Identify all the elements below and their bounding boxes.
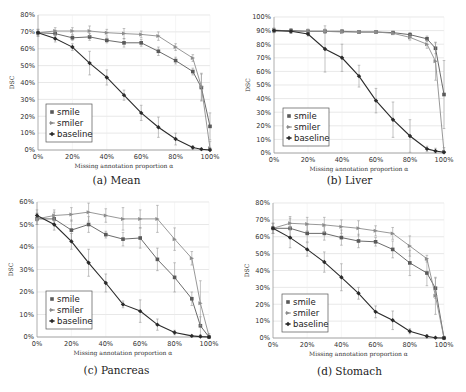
y-tick-label: 60% [256, 68, 271, 76]
square-marker [174, 59, 178, 63]
square-marker [87, 223, 91, 227]
x-tick-label: 80% [402, 341, 417, 349]
x-tick-label: 40% [334, 341, 349, 349]
y-tick-label: 50% [256, 81, 271, 89]
legend-label-smile: smile [57, 294, 80, 304]
x-tick-label: 0% [269, 156, 279, 164]
square-marker [286, 300, 290, 304]
caption-mean: (a) Mean [0, 174, 233, 186]
x-tick-label: 80% [403, 156, 418, 164]
chart-liver: 0%10%20%30%40%50%60%70%80%90%100%0%20%40… [233, 0, 466, 196]
x-tick-label: 40% [99, 153, 114, 161]
x-tick-label: 80% [167, 340, 182, 348]
legend: smilesmilerbaseline [283, 108, 330, 146]
y-tick-label: 30% [256, 109, 271, 117]
y-tick-label: 20% [20, 113, 35, 121]
x-tick-label: 0% [268, 341, 278, 349]
x-tick-label: 20% [301, 156, 316, 164]
y-tick-label: 40% [19, 243, 34, 251]
y-tick-label: 20% [255, 301, 270, 309]
x-tick-label: 40% [98, 340, 113, 348]
x-tick-label: 80% [168, 153, 183, 161]
y-tick-label: 70% [255, 216, 270, 224]
legend: smilesmilerbaseline [46, 104, 93, 142]
square-marker [122, 41, 126, 45]
square-marker [408, 261, 412, 265]
y-tick-label: 50% [20, 62, 35, 70]
y-tick-label: 10% [20, 129, 35, 137]
square-marker [104, 233, 108, 237]
chart-panel-mean: 0%10%20%30%40%50%60%70%80%0%20%40%60%80%… [0, 0, 233, 196]
x-axis-label: Missing annotation proportion α [309, 350, 408, 358]
square-marker [305, 232, 309, 236]
legend: smilesmilerbaseline [46, 291, 93, 329]
legend-label-smiler: smiler [57, 305, 84, 315]
legend-label-baseline: baseline [57, 316, 93, 326]
diamond-marker [35, 213, 39, 217]
diamond-marker [190, 334, 194, 338]
legend-label-baseline: baseline [294, 133, 330, 143]
x-axis-label: Missing annotation proportion α [75, 162, 174, 170]
legend-label-smile: smile [293, 297, 316, 307]
square-marker [287, 114, 291, 118]
y-axis-label: DSC [244, 78, 251, 92]
y-tick-label: 50% [255, 250, 270, 258]
y-axis-label: DSC [243, 263, 250, 277]
x-tick-label: 100% [435, 341, 454, 349]
x-tick-label: 0% [33, 153, 43, 161]
y-tick-label: 10% [256, 136, 271, 144]
chart-panel-pancreas: 0%10%20%30%40%50%60%0%20%40%60%80%100%Mi… [0, 196, 233, 392]
square-marker [121, 237, 125, 241]
y-tick-label: 60% [255, 233, 270, 241]
legend-label-smile: smile [57, 107, 80, 117]
x-tick-label: 60% [368, 341, 383, 349]
y-tick-label: 80% [255, 199, 270, 207]
x-tick-label: 60% [134, 153, 149, 161]
chart-stomach: 0%10%20%30%40%50%60%70%80%0%20%40%60%80%… [233, 196, 466, 392]
x-tick-label: 60% [133, 340, 148, 348]
square-marker [71, 36, 75, 40]
x-axis-label: Missing annotation proportion α [74, 349, 173, 357]
legend-label-smiler: smiler [293, 308, 320, 318]
y-tick-label: 20% [256, 122, 271, 130]
x-tick-label: 100% [200, 340, 219, 348]
x-tick-label: 40% [335, 156, 350, 164]
x-tick-label: 100% [435, 156, 454, 164]
y-tick-label: 40% [20, 79, 35, 87]
caption-pancreas: (c) Pancreas [0, 364, 233, 376]
y-tick-label: 80% [256, 41, 271, 49]
legend-label-baseline: baseline [57, 129, 93, 139]
legend-label-smiler: smiler [294, 122, 321, 132]
x-tick-label: 60% [369, 156, 384, 164]
legend-label-baseline: baseline [293, 319, 329, 329]
square-marker [374, 240, 378, 244]
caption-stomach: (d) Stomach [233, 365, 466, 377]
y-axis-label: DSC [7, 262, 14, 276]
square-marker [157, 49, 161, 53]
y-tick-label: 40% [256, 95, 271, 103]
square-marker [425, 271, 429, 275]
y-tick-label: 90% [256, 27, 271, 35]
x-axis-label: Missing annotation proportion α [310, 165, 409, 173]
square-marker [50, 297, 54, 301]
x-tick-label: 20% [65, 153, 80, 161]
x-tick-label: 100% [201, 153, 220, 161]
y-axis-label: DSC [8, 75, 15, 89]
chart-pancreas: 0%10%20%30%40%50%60%0%20%40%60%80%100%Mi… [0, 196, 233, 392]
x-tick-label: 0% [32, 340, 42, 348]
y-tick-label: 40% [255, 267, 270, 275]
square-marker [70, 228, 74, 232]
diamond-marker [433, 335, 437, 339]
x-tick-label: 20% [64, 340, 79, 348]
caption-liver: (b) Liver [233, 174, 466, 186]
square-marker [442, 93, 446, 97]
y-tick-label: 20% [19, 288, 34, 296]
legend-label-smiler: smiler [57, 118, 84, 128]
y-tick-label: 10% [19, 311, 34, 319]
square-marker [357, 239, 361, 243]
y-tick-label: 70% [256, 54, 271, 62]
square-marker [208, 125, 212, 129]
y-tick-label: 50% [19, 221, 34, 229]
square-marker [340, 236, 344, 240]
square-marker [50, 110, 54, 114]
